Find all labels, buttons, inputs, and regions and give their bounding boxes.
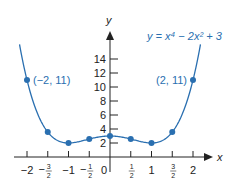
y-tick-label: 10 [94,81,106,93]
x-tick-label: −2 [21,164,34,176]
x-tick: 1 [148,151,154,176]
y-tick-label: 14 [94,53,106,65]
x-tick-label: 1 [148,164,154,176]
x-tick-numerator: 3 [47,163,51,170]
y-tick-label: 2 [100,137,106,149]
x-tick-label: −1 [62,164,75,176]
data-point [66,140,72,146]
data-point [128,136,134,142]
x-ticks: −2−32−1−120121322 [21,151,196,179]
x-axis-arrow-icon [204,153,213,161]
data-point [24,77,30,83]
data-point [169,129,175,135]
y-axis-label: y [105,14,113,26]
y-tick-label: 6 [100,109,106,121]
x-tick-label: 2 [190,164,196,176]
y-ticks: 2468101214 [94,53,118,149]
data-point [86,136,92,142]
y-tick-label: 8 [100,95,106,107]
y-tick: 8 [100,95,118,107]
x-tick: −32 [39,151,52,179]
data-point [190,77,196,83]
x-tick-sign: − [80,163,86,175]
x-tick-numerator: 3 [171,163,175,170]
y-tick-label: 12 [94,67,106,79]
data-point [107,133,113,139]
x-tick-sign: − [39,163,45,175]
x-axis-label: x [216,151,223,163]
x-tick: 12 [129,151,135,179]
polynomial-chart: x y −2−32−1−120121322 2468101214 (−2, 11… [0,0,236,186]
y-tick: 10 [94,81,118,93]
x-tick: −2 [21,151,34,176]
y-axis-arrow-icon [106,31,114,40]
x-tick-denominator: 2 [88,172,92,179]
equation-label: y = x⁴ − 2x² + 3 [146,30,223,42]
x-tick: 0 [101,164,107,176]
data-point [45,129,51,135]
point-label: (−2, 11) [33,74,70,86]
x-tick-numerator: 1 [88,163,92,170]
y-tick: 12 [94,67,118,79]
x-tick: −1 [62,151,75,176]
x-tick-denominator: 2 [47,172,51,179]
x-tick-numerator: 1 [130,163,134,170]
y-tick: 6 [100,109,118,121]
x-tick: 32 [170,151,176,179]
point-label: (2, 11) [156,74,187,86]
data-point [149,140,155,146]
x-tick-label: 0 [101,164,107,176]
x-tick-denominator: 2 [171,172,175,179]
x-tick-denominator: 2 [130,172,134,179]
y-tick: 14 [94,53,118,65]
x-tick: −12 [80,151,93,179]
y-tick-label: 4 [100,123,106,135]
x-tick: 2 [190,151,196,176]
